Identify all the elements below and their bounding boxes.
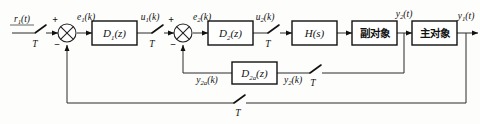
summer-outer-plus-sign: +	[52, 14, 58, 25]
block-hs-label: H(s)	[304, 27, 325, 40]
sampler-u2[interactable]: T	[265, 25, 279, 49]
block-d1[interactable]: D1(z)	[92, 21, 137, 45]
block-secondary-plant[interactable]: 副对象	[352, 21, 397, 45]
signal-label-e2: e2(k)	[193, 12, 211, 23]
summer-outer-minus-sign: −	[54, 39, 60, 50]
sampler-input[interactable]: T	[32, 25, 46, 49]
block-diagram-svg: T T T T T + −	[0, 0, 480, 124]
sampler-outer-feedback[interactable]: T	[234, 95, 245, 118]
sampler-outer-feedback-label: T	[235, 108, 241, 118]
block-d2[interactable]: D2(z)	[208, 21, 253, 45]
signal-label-u1: u1(k)	[141, 12, 160, 23]
signal-label-y2t: y2(t)	[395, 9, 413, 20]
signal-label-e1: e1(k)	[77, 12, 95, 23]
block-diagram-canvas: T T T T T + −	[0, 0, 480, 124]
sampler-inner-feedback-label: T	[310, 78, 316, 88]
block-d1-label: D1(z)	[102, 27, 126, 41]
signal-label-y1t: y1(t)	[457, 11, 475, 22]
signal-label-input: r1(t)	[10, 14, 34, 25]
summer-inner[interactable]: + −	[168, 14, 192, 50]
signal-input-text: r1(t)	[14, 14, 30, 25]
signal-label-u2: u2(k)	[256, 12, 275, 23]
sampler-input-label: T	[32, 39, 38, 49]
block-secondary-plant-label: 副对象	[360, 27, 391, 39]
signal-label-y2ak: y2a(k)	[195, 75, 218, 86]
sampler-u2-label: T	[265, 39, 271, 49]
sampler-u1[interactable]: T	[149, 25, 163, 49]
block-hs[interactable]: H(s)	[292, 21, 337, 45]
block-main-plant[interactable]: 主对象	[412, 21, 457, 45]
sampler-u1-label: T	[149, 39, 155, 49]
summer-outer[interactable]: + −	[52, 14, 76, 50]
sampler-inner-feedback[interactable]: T	[310, 65, 321, 88]
block-d2a[interactable]: D2a(z)	[232, 62, 277, 84]
block-main-plant-label: 主对象	[420, 27, 451, 39]
summer-inner-minus-sign: −	[170, 39, 176, 50]
block-d2-label: D2(z)	[218, 27, 242, 41]
summer-inner-plus-sign: +	[168, 14, 174, 25]
signal-label-y2k: y2(k)	[283, 75, 302, 86]
